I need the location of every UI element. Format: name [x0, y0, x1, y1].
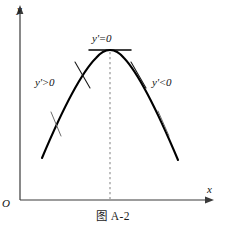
- right-upper-tangent-segment: [131, 62, 146, 88]
- figure-container: y x O y'=0 y'>0 y'<0 图 A-2: [0, 0, 226, 235]
- right-branch-derivative-label: y'<0: [152, 77, 171, 88]
- x-axis: [20, 197, 214, 204]
- x-axis-arrow: [205, 197, 214, 204]
- right-lower-tangent-segment: [158, 111, 169, 136]
- figure-caption: 图 A-2: [0, 211, 226, 223]
- vertex-derivative-label: y'=0: [92, 33, 111, 44]
- origin-label: O: [2, 198, 10, 209]
- y-axis-label: y: [17, 4, 22, 15]
- figure-graphic: [0, 0, 226, 235]
- x-axis-label: x: [207, 184, 212, 195]
- left-branch-derivative-label: y'>0: [35, 77, 54, 88]
- y-axis: [17, 5, 24, 200]
